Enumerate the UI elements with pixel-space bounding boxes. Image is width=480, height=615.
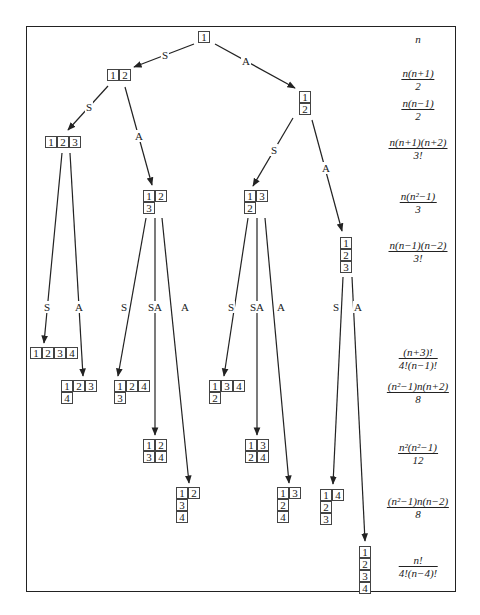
- symmetric-label: S: [85, 101, 93, 113]
- tableau-cell: 4: [332, 489, 344, 501]
- antisymmetric-label: A: [241, 55, 251, 67]
- dimension-formula: n²(n²−1)12: [398, 441, 438, 466]
- tableau-cell: 2: [57, 136, 69, 148]
- tableau-cell: 4: [359, 582, 371, 594]
- tableau-cell: 3: [143, 451, 155, 463]
- formula-numerator: n(n²−1): [400, 190, 437, 203]
- branch-arrow: [118, 218, 146, 376]
- tableau-cell: 3: [221, 380, 233, 392]
- tableau-cell: 4: [176, 511, 188, 523]
- tableau-cell: 1: [176, 487, 188, 499]
- branch-arrow: [70, 153, 83, 376]
- dimension-formula: n(n²−1)3: [400, 190, 437, 215]
- tableau-cell: 2: [155, 190, 167, 202]
- tableau-cell: 1: [143, 190, 155, 202]
- tableau-cell: 3: [340, 261, 352, 273]
- formula-denominator: 2: [401, 110, 434, 122]
- tableau-cell: 4: [61, 392, 73, 404]
- tableau-cell: 1: [143, 439, 155, 451]
- tableau-cell: 1: [30, 347, 42, 359]
- symmetric-label: S: [120, 301, 128, 313]
- formula-numerator: (n²−1)n(n−2): [387, 495, 449, 508]
- tableau-cell: 1: [245, 439, 257, 451]
- formula-numerator: (n²−1)n(n+2): [387, 380, 449, 393]
- branch-edges: [0, 0, 480, 615]
- tableau-cell: 2: [73, 380, 85, 392]
- tableau-cell: 4: [155, 451, 167, 463]
- antisymmetric-label: A: [276, 301, 286, 313]
- antisymmetric-label: A: [134, 130, 144, 142]
- tableau-cell: 3: [114, 392, 126, 404]
- tableau-cell: 2: [244, 202, 256, 214]
- dimension-formula: n(n+1)(n+2)3!: [389, 136, 448, 161]
- tableau-cell: 3: [257, 439, 269, 451]
- tableau-cell: 1: [107, 69, 119, 81]
- tableau-cell: 2: [155, 439, 167, 451]
- dimension-formula: (n+3)!4!(n−1)!: [399, 346, 438, 371]
- tableau-cell: 4: [66, 347, 78, 359]
- tableau-cell: 2: [245, 451, 257, 463]
- formula-denominator: 8: [387, 393, 449, 405]
- tableau-cell: 3: [85, 380, 97, 392]
- tableau-cell: 3: [176, 499, 188, 511]
- dimension-formula: n(n+1)2: [401, 67, 434, 92]
- tableau-cell: 1: [45, 136, 57, 148]
- formula-numerator: (n+3)!: [399, 346, 438, 359]
- formula-denominator: 8: [387, 508, 449, 520]
- tableau-cell: 1: [320, 489, 332, 501]
- tableau-cell: 1: [299, 91, 311, 103]
- mixed-symmetry-label: SA: [249, 301, 265, 313]
- tableau-cell: 1: [61, 380, 73, 392]
- symmetric-label: S: [227, 301, 235, 313]
- tableau-cell: 2: [126, 380, 138, 392]
- dimension-formula: n(n−1)(n−2)3!: [389, 239, 448, 264]
- tableau-cell: 3: [69, 136, 81, 148]
- formula-denominator: 4!(n−4)!: [399, 567, 438, 579]
- tableau-cell: 2: [340, 249, 352, 261]
- tableau-cell: 2: [359, 558, 371, 570]
- formula-numerator: n(n−1)(n−2): [389, 239, 448, 252]
- branch-arrow: [312, 120, 342, 231]
- tableau-cell: 4: [138, 380, 150, 392]
- dimension-formula: (n²−1)n(n+2)8: [387, 380, 449, 405]
- tableau-cell: 3: [256, 190, 268, 202]
- dimension-formula: n!4!(n−4)!: [399, 554, 438, 579]
- tableau-cell: 2: [320, 501, 332, 513]
- antisymmetric-label: A: [353, 301, 363, 313]
- formula-denominator: 3: [400, 203, 437, 215]
- tableau-cell: 3: [143, 202, 155, 214]
- tableau-cell: 2: [277, 499, 289, 511]
- antisymmetric-label: A: [180, 301, 190, 313]
- formula-numerator: n!: [399, 554, 438, 567]
- antisymmetric-label: A: [74, 301, 84, 313]
- dimension-formula: n(n−1)2: [401, 97, 434, 122]
- symmetric-label: S: [332, 301, 340, 313]
- formula-denominator: 2: [401, 80, 434, 92]
- tableau-cell: 2: [42, 347, 54, 359]
- tableau-cell: 2: [299, 103, 311, 115]
- tableau-cell: 3: [289, 487, 301, 499]
- tableau-cell: 2: [209, 392, 221, 404]
- tableau-cell: 2: [188, 487, 200, 499]
- tableau-cell: 4: [257, 451, 269, 463]
- tableau-cell: 1: [359, 546, 371, 558]
- formula-numerator: n(n−1): [401, 97, 434, 110]
- formula-denominator: 12: [398, 454, 438, 466]
- tableau-cell: 4: [277, 511, 289, 523]
- symmetric-label: S: [270, 144, 278, 156]
- formula-numerator: n(n+1)(n+2): [389, 136, 448, 149]
- tableau-cell: 3: [320, 513, 332, 525]
- formula-numerator: n²(n²−1): [398, 441, 438, 454]
- branch-arrow: [224, 218, 248, 376]
- mixed-symmetry-label: SA: [147, 301, 163, 313]
- formula-denominator: 4!(n−1)!: [399, 359, 438, 371]
- symmetric-label: S: [43, 301, 51, 313]
- tableau-cell: 2: [119, 69, 131, 81]
- tableau-cell: 4: [233, 380, 245, 392]
- tableau-cell: 1: [198, 31, 210, 43]
- formula-numerator: n: [414, 33, 422, 45]
- tableau-cell: 1: [114, 380, 126, 392]
- tableau-cell: 1: [209, 380, 221, 392]
- tableau-cell: 3: [54, 347, 66, 359]
- branch-arrow: [44, 153, 62, 343]
